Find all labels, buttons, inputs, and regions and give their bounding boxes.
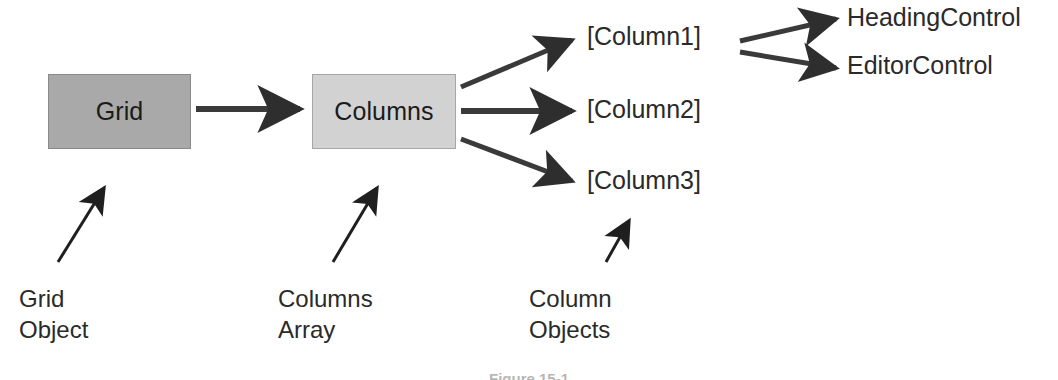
annotation-columns-array: Columns Array [278, 284, 373, 345]
figure-diagram-grid-columns: Grid Columns [Column1] [Column2] [Column… [0, 0, 1058, 380]
edge-column1-to-editorcontrol [740, 52, 836, 68]
leaf-label-column2: [Column2] [587, 97, 701, 122]
edge-column-objects-pointer [606, 221, 629, 262]
annotation-column-objects: Column Objects [529, 284, 612, 345]
leaf-label-column3: [Column3] [587, 168, 701, 193]
figure-caption: Figure 15-1 [0, 371, 1058, 380]
node-grid-box: Grid [48, 74, 191, 149]
edge-columns-to-column1 [461, 40, 572, 87]
node-columns-box: Columns [312, 74, 456, 149]
edge-column1-to-headingcontrol [740, 19, 836, 41]
leaf-label-heading-control: HeadingControl [847, 5, 1021, 30]
edge-grid-object-pointer [58, 188, 104, 262]
leaf-label-editor-control: EditorControl [847, 53, 993, 78]
node-grid-label: Grid [96, 99, 144, 124]
edge-columns-to-column3 [461, 139, 572, 181]
edge-columns-array-pointer [333, 188, 377, 262]
leaf-label-column1: [Column1] [587, 24, 701, 49]
node-columns-label: Columns [334, 99, 433, 124]
annotation-grid-object: Grid Object [19, 284, 88, 345]
